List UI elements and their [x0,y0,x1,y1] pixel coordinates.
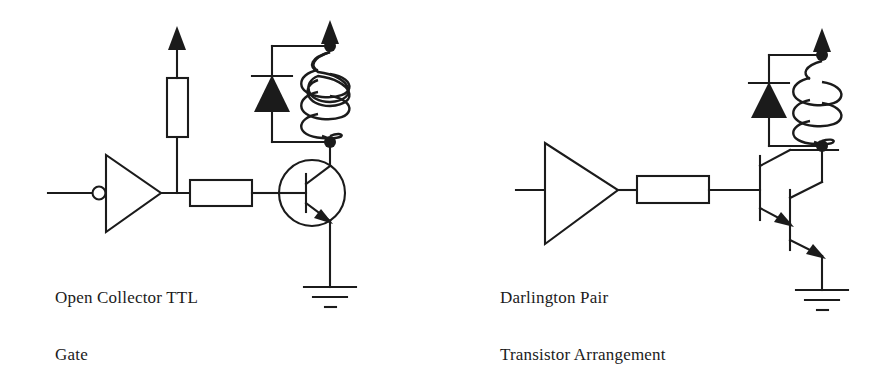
inverting-buffer-gate-icon [106,155,161,232]
caption-right-line-1: Darlington Pair [500,288,666,307]
caption-left-line-2: Gate [55,345,198,364]
flyback-diode-icon-right [751,82,787,118]
inductor-lead-top [314,52,330,71]
q2-collector-lead [790,182,822,198]
load-supply-arrow-icon-right [813,28,831,52]
pull-up-resistor-icon [167,78,188,137]
inductor-coil-right-a [793,78,841,105]
caption-open-collector: Open Collector TTL Gate [55,250,198,368]
supply-arrow-icon [168,26,186,50]
flyback-diode-icon [254,75,290,112]
inductor-coil-right-c [793,121,834,144]
inversion-bubble-icon [93,187,106,200]
caption-right-line-2: Transistor Arrangement [500,345,666,364]
base-resistor-icon-right [637,176,709,203]
inductor-lead-top-right [806,61,822,79]
caption-darlington-pair: Darlington Pair Transistor Arrangement [500,250,666,368]
q1-collector-lead [760,150,790,166]
load-supply-arrow-icon [321,20,339,44]
caption-left-line-1: Open Collector TTL [55,288,198,307]
buffer-gate-icon [545,143,618,244]
base-resistor-icon [190,180,252,206]
